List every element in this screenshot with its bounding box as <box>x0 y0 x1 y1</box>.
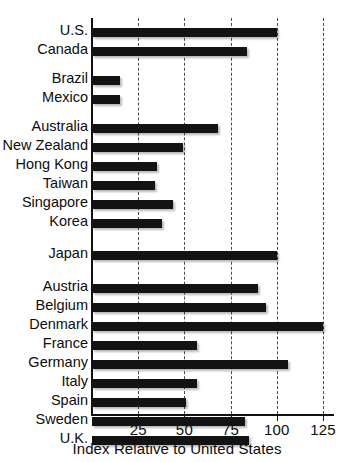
category-label: Spain <box>51 393 88 407</box>
category-label: Taiwan <box>43 176 88 190</box>
category-label: Denmark <box>29 317 88 331</box>
bar <box>92 181 155 190</box>
gridline-25 <box>138 18 139 414</box>
bar <box>92 251 277 260</box>
bar <box>92 76 120 85</box>
category-label: Korea <box>49 214 88 228</box>
category-label: Sweden <box>36 412 88 426</box>
gridline-75 <box>231 18 232 414</box>
bar <box>92 284 258 293</box>
category-label: Brazil <box>52 71 88 85</box>
category-label: Singapore <box>22 195 88 209</box>
plot-area <box>92 18 323 414</box>
bar <box>92 200 173 209</box>
bar <box>92 436 249 445</box>
category-label: France <box>43 336 88 350</box>
bar <box>92 162 157 171</box>
bar-chart: 255075100125 U.S.CanadaBrazilMexicoAustr… <box>0 0 354 462</box>
bar <box>92 47 247 56</box>
x-tick-label: 100 <box>254 421 300 438</box>
tick-mark-125 <box>323 414 324 421</box>
category-label: Austria <box>43 279 88 293</box>
category-label: Japan <box>48 246 88 260</box>
gridline-125 <box>323 18 324 414</box>
tick-mark-100 <box>277 414 278 421</box>
category-label: Germany <box>28 355 88 369</box>
bar <box>92 124 218 133</box>
category-label: Hong Kong <box>15 157 88 171</box>
category-label: Canada <box>37 42 88 56</box>
bar <box>92 322 323 331</box>
category-label: New Zealand <box>3 138 88 152</box>
gridline-100 <box>277 18 278 414</box>
category-label: U.S. <box>60 23 88 37</box>
category-label: Belgium <box>36 298 88 312</box>
bar <box>92 143 183 152</box>
bar <box>92 379 197 388</box>
category-label: Italy <box>61 374 88 388</box>
bar <box>92 28 277 37</box>
bar <box>92 360 288 369</box>
x-tick-label: 125 <box>300 421 346 438</box>
bar <box>92 417 245 426</box>
category-label: Mexico <box>42 90 88 104</box>
gridline-50 <box>184 18 185 414</box>
bar <box>92 95 120 104</box>
bar <box>92 219 162 228</box>
category-label: Australia <box>32 119 88 133</box>
bar <box>92 303 266 312</box>
x-axis-line <box>91 414 334 416</box>
bar <box>92 398 186 407</box>
bar <box>92 341 197 350</box>
